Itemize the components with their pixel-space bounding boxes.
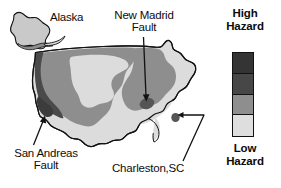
label-san-andreas-fault: San Andreas Fault — [7, 148, 85, 171]
label-new-madrid-line1: New Madrid — [106, 10, 182, 22]
label-new-madrid-line2: Fault — [106, 22, 182, 34]
label-san-andreas-line1: San Andreas — [7, 148, 85, 160]
hazard-color-scale — [232, 52, 254, 137]
earthquake-hazard-figure: Alaska New Madrid Fault San Andreas Faul… — [0, 0, 281, 188]
hazard-swatch-high — [233, 74, 253, 95]
legend-title-low-hazard: Low Hazard — [214, 142, 276, 168]
legend-title-line1: High — [232, 7, 257, 19]
interior-low-hazard-island-2 — [86, 73, 94, 79]
san-andreas-leader-line — [34, 120, 44, 145]
conterminous-us-map — [33, 40, 196, 146]
legend-title-high-hazard: High Hazard — [214, 7, 276, 33]
label-alaska-text: Alaska — [50, 12, 83, 24]
label-san-andreas-line2: Fault — [7, 160, 85, 172]
label-charleston-sc: Charleston,SC — [112, 163, 184, 175]
label-alaska: Alaska — [50, 12, 83, 24]
label-new-madrid-fault: New Madrid Fault — [106, 10, 182, 33]
legend-footer-line2: Hazard — [226, 155, 264, 167]
legend-footer-line1: Low — [234, 142, 257, 154]
interior-low-hazard-island-1 — [93, 61, 106, 71]
charleston-leader-line — [183, 115, 205, 161]
legend-title-line2: Hazard — [226, 20, 264, 32]
charleston-high-hazard-zone — [171, 113, 179, 122]
label-charleston-text: Charleston,SC — [112, 163, 184, 175]
hazard-swatch-highest — [233, 53, 253, 74]
hazard-swatch-moderate — [233, 95, 253, 116]
hazard-swatch-low — [233, 115, 253, 136]
hazard-legend: High Hazard Low Hazard — [214, 7, 276, 183]
